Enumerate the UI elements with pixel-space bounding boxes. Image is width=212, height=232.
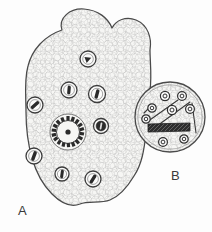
vascular-bundle: [159, 138, 168, 147]
central-vascular-bundle: [50, 114, 86, 150]
panel-b-label: B: [171, 168, 180, 183]
figure-root: A: [0, 0, 212, 232]
vascular-bundle: [61, 82, 77, 98]
vascular-bundle: [94, 119, 109, 134]
vascular-bundle: [148, 104, 156, 112]
vascular-bundle: [186, 105, 195, 114]
vascular-bundle: [180, 135, 188, 143]
bundle-core: [65, 129, 70, 134]
vascular-bundle: [85, 171, 101, 187]
vascular-bundle: [167, 105, 176, 114]
sclerenchyma-bar: [148, 123, 190, 132]
vascular-bundle: [160, 91, 169, 100]
scientific-figure: A: [0, 0, 212, 232]
vascular-bundle: [178, 92, 187, 101]
vascular-bundle: [89, 86, 106, 103]
panel-a-label: A: [18, 203, 27, 218]
vascular-bundle: [55, 167, 69, 181]
vascular-bundle: [27, 97, 43, 113]
vascular-bundle: [80, 51, 96, 67]
vascular-bundle: [142, 115, 150, 123]
vascular-bundle: [26, 148, 42, 164]
